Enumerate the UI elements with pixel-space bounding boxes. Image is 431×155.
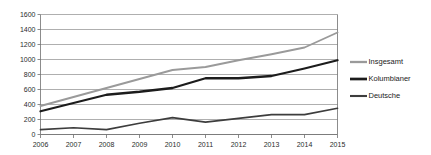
x-tick-label: 2010 xyxy=(165,141,181,148)
x-tick-label: 2012 xyxy=(231,141,247,148)
y-tick-label: 1200 xyxy=(20,41,36,48)
y-tick-label: 0 xyxy=(32,131,36,138)
x-tick-label: 2009 xyxy=(132,141,148,148)
legend-label-kolumbianer: Kolumbianer xyxy=(369,74,412,83)
x-tick-label: 2014 xyxy=(297,141,313,148)
legend-label-deutsche: Deutsche xyxy=(369,91,401,100)
y-tick-label: 1600 xyxy=(20,11,36,18)
x-tick-label: 2015 xyxy=(330,141,346,148)
x-tick-label: 2013 xyxy=(264,141,280,148)
x-tick-label: 2008 xyxy=(99,141,115,148)
y-tick-label: 600 xyxy=(24,86,36,93)
y-tick-label: 1400 xyxy=(20,26,36,33)
y-tick-label: 200 xyxy=(24,116,36,123)
line-chart: 02004006008001000120014001600 2006200720… xyxy=(0,0,431,155)
y-tick-label: 400 xyxy=(24,101,36,108)
x-tick-label: 2011 xyxy=(198,141,213,148)
chart-canvas: 02004006008001000120014001600 2006200720… xyxy=(0,0,431,155)
y-tick-label: 1000 xyxy=(20,56,36,63)
x-tick-label: 2006 xyxy=(33,141,49,148)
x-tick-label: 2007 xyxy=(66,141,82,148)
y-tick-label: 800 xyxy=(24,71,36,78)
legend-label-insgesamt: Insgesamt xyxy=(369,57,405,66)
